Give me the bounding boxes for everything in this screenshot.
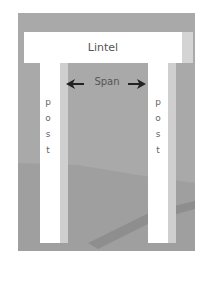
right-post-letter: p [152,97,164,107]
left-post-letter: s [42,129,54,139]
left-post-letter: p [42,97,54,107]
span-label: Span [92,76,122,87]
left-post-letter: o [42,113,54,123]
lintel-label: Lintel [24,32,182,63]
lintel-side [182,32,193,63]
right-post-letter: o [152,113,164,123]
left-post-letter: t [42,145,54,155]
arrow-left-icon [66,79,84,89]
left-post-side [60,63,68,243]
right-post-letter: t [152,145,164,155]
right-post-side [168,63,176,243]
arrow-right-icon [128,79,146,89]
right-post-letter: s [152,129,164,139]
